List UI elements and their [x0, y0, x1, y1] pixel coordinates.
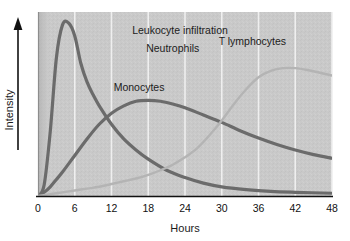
x-tick-label: 30	[216, 202, 228, 214]
x-tick-label: 6	[72, 202, 78, 214]
x-tick-label: 24	[179, 202, 191, 214]
series-label-monocytes: Monocytes	[114, 81, 165, 93]
x-tick-labels: 0612182430364248	[35, 202, 338, 214]
leukocyte-infiltration-figure: Intensity Leukocyte infiltration 0612182…	[0, 0, 350, 241]
x-tick-label: 18	[142, 202, 154, 214]
y-axis-title: Intensity	[3, 89, 15, 130]
x-tick-label: 48	[326, 202, 338, 214]
x-axis-title: Hours	[170, 222, 200, 234]
x-tick-label: 36	[253, 202, 265, 214]
chart-canvas: Intensity Leukocyte infiltration 0612182…	[0, 0, 350, 241]
x-tick-label: 12	[106, 202, 118, 214]
series-label-neutrophils: Neutrophils	[146, 42, 199, 54]
chart-title: Leukocyte infiltration	[132, 24, 228, 36]
x-tick-label: 42	[289, 202, 301, 214]
x-tick-label: 0	[35, 202, 41, 214]
series-label-t-lymphocytes: T lymphocytes	[219, 35, 287, 47]
